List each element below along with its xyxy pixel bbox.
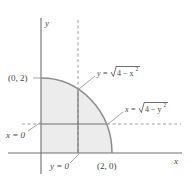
shaded-region [41, 78, 112, 153]
label-curve-x-of-y-eq: = [131, 105, 136, 114]
label-point-2-0: (2, 0) [97, 161, 117, 171]
leader-curve-y-of-x [79, 76, 95, 89]
label-curve-y-of-x-exponent: 2 [136, 66, 139, 72]
label-curve-y-of-x: y = 4 − x 2 [96, 66, 140, 78]
label-curve-x-of-y-exponent: 2 [164, 102, 167, 108]
leader-curve-x-of-y [108, 112, 123, 124]
y-axis-label: y [44, 18, 49, 28]
x-axis-label: x [173, 156, 178, 166]
figure-container: y x (0, 2) (2, 0) x = 0 y = 0 y = 4 − x … [0, 0, 190, 182]
leader-x-equals-zero [28, 122, 41, 131]
label-x-equals-zero: x = 0 [5, 130, 26, 140]
label-curve-y-of-x-eq: = [103, 69, 108, 78]
label-curve-y-of-x-lhs: y [96, 69, 101, 78]
quarter-disk-figure: y x (0, 2) (2, 0) x = 0 y = 0 y = 4 − x … [0, 0, 190, 182]
label-curve-x-of-y-radicand: 4 − y [145, 105, 162, 114]
label-curve-y-of-x-radicand: 4 − x [117, 69, 134, 78]
leader-y-equals-zero [70, 154, 79, 163]
label-y-equals-zero: y = 0 [49, 161, 70, 171]
label-curve-x-of-y-lhs: x [124, 105, 129, 114]
label-point-0-2: (0, 2) [8, 73, 28, 83]
label-curve-x-of-y: x = 4 − y 2 [124, 102, 168, 114]
